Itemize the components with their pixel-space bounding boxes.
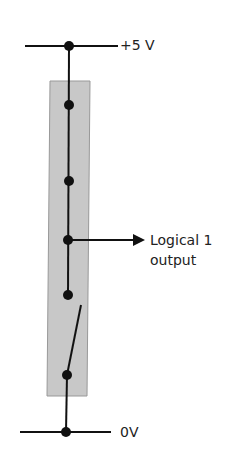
- node-1: [64, 100, 74, 110]
- node-2: [64, 176, 74, 186]
- output-label-line2: output: [150, 252, 197, 268]
- arrowhead-icon: [133, 234, 145, 246]
- node-switch-top: [63, 290, 73, 300]
- circuit-diagram: +5 V Logical 1 output 0V: [0, 0, 242, 459]
- node-switch-bottom: [62, 370, 72, 380]
- node-ground: [61, 427, 71, 437]
- supply-label: +5 V: [120, 37, 155, 53]
- node-output: [63, 235, 73, 245]
- node-supply: [64, 41, 74, 51]
- vertical-wire-upper: [68, 46, 69, 295]
- output-label-line1: Logical 1: [150, 232, 212, 248]
- vertical-wire-lower: [66, 375, 67, 432]
- ground-label: 0V: [120, 424, 139, 440]
